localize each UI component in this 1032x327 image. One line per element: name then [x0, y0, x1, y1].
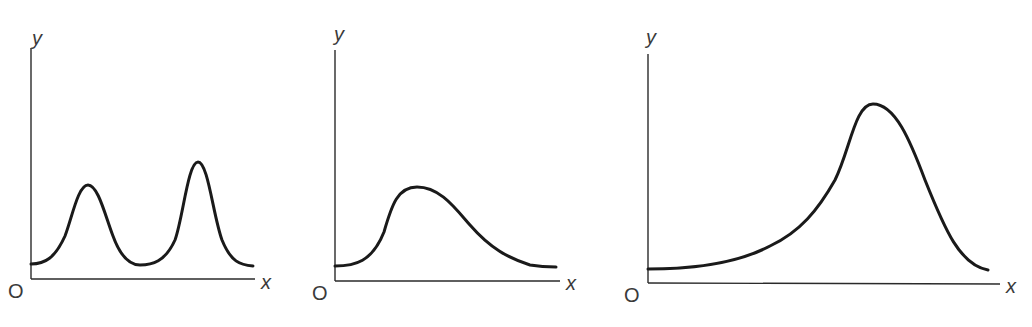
curve — [335, 187, 556, 267]
panel-2: y x O — [312, 23, 577, 304]
panel-3: y x O — [624, 26, 1017, 306]
x-axis-label: x — [1005, 275, 1017, 297]
x-axis — [648, 283, 1000, 284]
y-axis-label: y — [644, 26, 657, 48]
origin-label: O — [8, 280, 24, 302]
origin-label: O — [624, 284, 640, 306]
curve — [648, 104, 988, 270]
curve — [31, 162, 253, 266]
panel-1: y x O — [8, 27, 272, 302]
y-axis-label: y — [30, 27, 43, 49]
x-axis-label: x — [565, 272, 577, 294]
figure-canvas: y x O y x O y x O — [0, 0, 1032, 327]
x-axis-label: x — [260, 271, 272, 293]
origin-label: O — [312, 282, 328, 304]
y-axis-label: y — [332, 23, 345, 45]
